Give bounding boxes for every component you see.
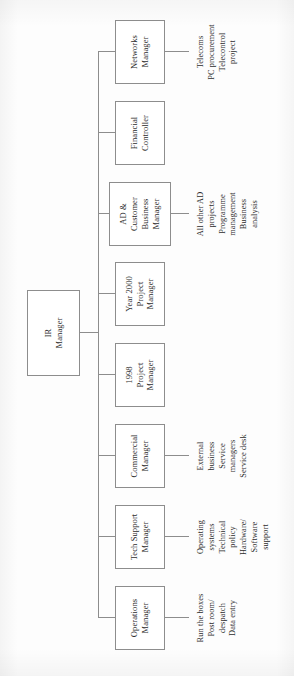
org-chart-canvas: IR Manager Operations Manager Tech Suppo… bbox=[0, 0, 294, 676]
leaf-line: business bbox=[207, 408, 218, 504]
leaf-line: project bbox=[228, 4, 239, 100]
node-line: Operations bbox=[129, 599, 140, 637]
chart-page: IR Manager Operations Manager Tech Suppo… bbox=[0, 0, 294, 676]
node-line: Customer bbox=[129, 197, 140, 231]
node-1998-project-manager[interactable]: 1998 Project Manager bbox=[115, 343, 165, 407]
node-line: 1998 bbox=[124, 366, 135, 383]
leaf-line: Business bbox=[239, 166, 250, 262]
node-line: AD & bbox=[118, 203, 129, 224]
drop-line-techsupport bbox=[98, 536, 115, 537]
trunk-line bbox=[98, 52, 99, 618]
leaf-line: Telecontrol bbox=[218, 4, 229, 100]
leaf-line: Software bbox=[250, 489, 261, 585]
leaf-line: analysis bbox=[250, 166, 261, 262]
node-operations-manager[interactable]: Operations Manager bbox=[115, 586, 165, 650]
node-networks-manager[interactable]: Networks Manager bbox=[115, 20, 165, 84]
drop-line-operations bbox=[98, 617, 115, 618]
node-line: Tech Support bbox=[129, 514, 140, 561]
node-commercial-manager[interactable]: Commercial Manager bbox=[115, 424, 165, 488]
leaf-list-networks: Telecoms PC procurement Telecontrol proj… bbox=[196, 4, 239, 100]
node-tech-support-manager[interactable]: Tech Support Manager bbox=[115, 505, 165, 569]
leaf-list-adcustomer: All other AD projects Programme manageme… bbox=[196, 166, 261, 262]
drop-line-commercial bbox=[98, 455, 115, 456]
leaf-line: Telecoms bbox=[196, 4, 207, 100]
leaf-stem-networks bbox=[165, 51, 189, 52]
node-line: Year 2000 bbox=[124, 276, 135, 312]
node-ir-manager[interactable]: IR Manager bbox=[27, 290, 80, 376]
leaf-line: All other AD bbox=[196, 166, 207, 262]
root-stem-line bbox=[80, 332, 98, 333]
drop-line-financial bbox=[98, 132, 115, 133]
node-line: Manager bbox=[140, 37, 151, 68]
leaf-line: support bbox=[261, 489, 272, 585]
drop-line-networks bbox=[98, 51, 115, 52]
node-line: Controller bbox=[140, 115, 151, 151]
node-financial-controller[interactable]: Financial Controller bbox=[115, 101, 165, 165]
node-year-2000-project-manager[interactable]: Year 2000 Project Manager bbox=[115, 262, 165, 326]
node-line: Manager bbox=[151, 199, 162, 230]
leaf-line: PC procurement bbox=[207, 4, 218, 100]
leaf-stem-techsupport bbox=[165, 536, 189, 537]
leaf-line: managers bbox=[228, 408, 239, 504]
node-line: Manager bbox=[145, 360, 156, 391]
leaf-stem-commercial bbox=[165, 455, 189, 456]
leaf-list-commercial: External business Service managers Servi… bbox=[196, 408, 250, 504]
node-line: Networks bbox=[129, 35, 140, 69]
node-line: Manager bbox=[145, 279, 156, 310]
leaf-stem-adcustomer bbox=[171, 213, 189, 214]
drop-line-2000 bbox=[98, 293, 115, 294]
leaf-line: management bbox=[228, 166, 239, 262]
node-line: IR bbox=[43, 329, 54, 338]
leaf-stem-operations bbox=[165, 617, 189, 618]
node-line: Manager bbox=[140, 441, 151, 472]
leaf-line: Service desk bbox=[239, 408, 250, 504]
node-line: Financial bbox=[129, 117, 140, 150]
leaf-line: Service bbox=[218, 408, 229, 504]
node-ad-customer-business-manager[interactable]: AD & Customer Business Manager bbox=[109, 182, 171, 246]
node-line: Manager bbox=[140, 522, 151, 553]
node-line: Manager bbox=[140, 603, 151, 634]
node-line: Project bbox=[135, 363, 146, 388]
leaf-line: projects bbox=[207, 166, 218, 262]
node-line: Commercial bbox=[129, 435, 140, 478]
node-line: Manager bbox=[54, 318, 65, 349]
leaf-line: Programme bbox=[218, 166, 229, 262]
leaf-line: External bbox=[196, 408, 207, 504]
node-line: Project bbox=[135, 282, 146, 307]
drop-line-1998 bbox=[98, 374, 115, 375]
node-line: Business bbox=[140, 198, 151, 229]
